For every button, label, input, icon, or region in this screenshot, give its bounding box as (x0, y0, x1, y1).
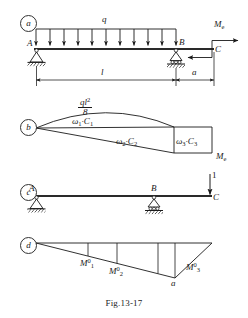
label-omega2-c2: ω2·C2 (116, 137, 137, 147)
roller-support-b (167, 49, 185, 68)
label-q: q (102, 15, 107, 24)
moment-me-base: M (214, 19, 222, 29)
label-dim-overhang-a: a (192, 68, 197, 77)
label-point-b-c: B (151, 184, 157, 193)
label-point-a: A (27, 39, 33, 48)
label-m2-zero: M02 (109, 266, 123, 277)
label-moment-me-b: Me (216, 152, 226, 162)
parabola-curve-omega1 (36, 113, 174, 128)
label-dim-a-d: a (171, 279, 176, 288)
peak-numerator: ql2 (78, 97, 92, 107)
panel-a-graphics (28, 29, 239, 86)
moment-me-sub: e (222, 23, 225, 30)
label-omega3-c3: ω3·C3 (176, 137, 197, 147)
label-point-c-c: C (213, 193, 219, 202)
label-moment-me: Me (214, 20, 224, 30)
label-point-a-c: A (29, 184, 35, 193)
label-omega1-c1: ω1·C1 (72, 117, 93, 127)
chord-line (36, 127, 174, 128)
dimension-lines-a (37, 52, 215, 86)
label-dim-span-l: l (101, 68, 104, 77)
panel-tag-a: a (20, 15, 37, 32)
roller-support-b-c (145, 196, 163, 214)
pin-support-a (28, 49, 46, 66)
panel-c-graphics (28, 174, 213, 214)
diagram-d-left-slope (36, 243, 175, 278)
triangle-edge-omega2 (36, 128, 174, 153)
figure-caption: Fig.13-17 (0, 298, 248, 308)
label-m3-zero: M03 (186, 262, 200, 273)
label-point-c: C (215, 45, 221, 54)
panel-tag-d: d (20, 237, 37, 254)
label-peak-ql2-8: ql2 8 (78, 97, 92, 118)
label-m1-zero: M01 (80, 258, 94, 269)
distributed-load-arrows (36, 29, 176, 46)
figure-canvas (0, 0, 248, 318)
label-point-b: B (179, 38, 185, 47)
diagram-d-ordinates (88, 243, 175, 278)
panel-tag-b: b (20, 119, 37, 136)
label-unit-load: 1 (212, 171, 217, 180)
